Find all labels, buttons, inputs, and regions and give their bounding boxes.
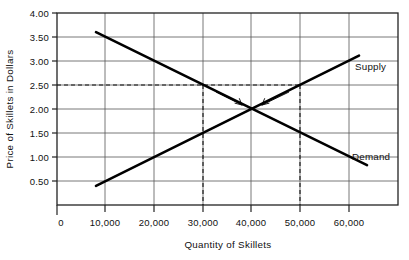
x-axis-title: Quantity of Skillets (184, 239, 271, 250)
y-tick-label-3-50: 3.50 (30, 32, 49, 43)
supply-curve-label: Supply (355, 61, 386, 72)
y-tick-label-3-00: 3.00 (30, 56, 49, 67)
y-axis-ticks (52, 13, 57, 215)
x-tick-label-50000: 50,000 (285, 217, 315, 228)
x-tick-label-10000: 10,000 (90, 217, 120, 228)
x-tick-label-20000: 20,000 (139, 217, 169, 228)
x-tick-label-60000: 60,000 (334, 217, 364, 228)
y-tick-label-0: 0 (58, 217, 63, 228)
y-axis-title: Price of Skillets in Dollars (4, 50, 15, 169)
x-tick-label-40000: 40,000 (236, 217, 266, 228)
y-tick-label-1-50: 1.50 (30, 128, 49, 139)
x-tick-label-30000: 30,000 (188, 217, 218, 228)
y-tick-label-4-00: 4.00 (30, 8, 49, 19)
x-axis-ticks (105, 205, 349, 212)
y-tick-label-2-50: 2.50 (30, 80, 49, 91)
supply-demand-chart: 4.00 3.50 3.00 2.50 2.00 1.50 1.00 0.50 … (0, 0, 409, 260)
x-axis-tick-labels: 10,000 20,000 30,000 40,000 50,000 60,00… (90, 217, 364, 228)
chart-svg: 4.00 3.50 3.00 2.50 2.00 1.50 1.00 0.50 … (0, 0, 409, 260)
y-tick-label-2-00: 2.00 (30, 104, 49, 115)
y-tick-label-1-00: 1.00 (30, 152, 49, 163)
demand-curve-label: Demand (352, 151, 390, 162)
y-tick-label-0-50: 0.50 (30, 176, 49, 187)
